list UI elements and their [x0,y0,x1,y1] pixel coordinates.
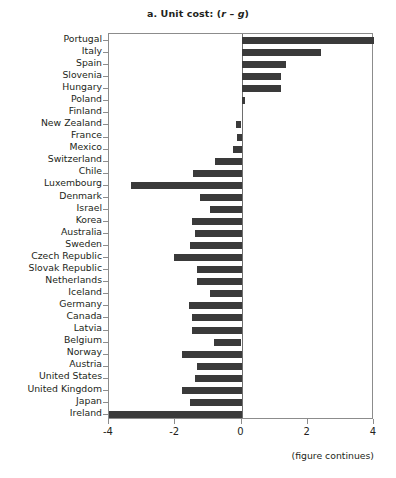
bar-row [109,360,372,372]
bar-row [109,155,372,167]
bar-france [237,134,242,141]
bar-row [109,311,372,323]
bar-united-kingdom [182,387,242,394]
y-axis-tick [103,52,109,53]
y-axis-label-iceland: Iceland [0,286,102,297]
y-axis-label-japan: Japan [0,395,102,406]
y-axis-label-italy: Italy [0,45,102,56]
bar-row [109,348,372,360]
bar-switzerland [215,158,242,165]
y-axis-tick [103,390,109,391]
y-axis-label-switzerland: Switzerland [0,153,102,164]
bar-row [109,58,372,70]
bar-row [109,275,372,287]
y-axis-tick [103,233,109,234]
y-axis-label-denmark: Denmark [0,190,102,201]
bar-iceland [210,290,241,297]
bar-ireland [109,411,242,418]
x-axis-tick-label: 2 [287,426,327,437]
y-axis-label-united-kingdom: United Kingdom [0,383,102,394]
y-axis-tick [103,173,109,174]
y-axis-label-new-zealand: New Zealand [0,117,102,128]
y-axis-tick [103,342,109,343]
y-axis-tick [103,221,109,222]
bar-row [109,106,372,118]
bar-sweden [190,242,241,249]
chart-title-suffix: ) [245,8,249,19]
bar-row [109,143,372,155]
y-axis-label-latvia: Latvia [0,322,102,333]
x-axis-tick-label: 0 [221,426,261,437]
plot-area [108,33,373,419]
y-axis-tick [103,64,109,65]
bar-italy [242,49,322,56]
y-axis-label-france: France [0,129,102,140]
x-axis-tick [373,419,374,424]
bar-poland [242,97,246,104]
chart-title-dash: – [226,8,238,19]
bar-denmark [200,194,241,201]
y-axis-label-norway: Norway [0,346,102,357]
y-axis-tick [103,149,109,150]
bar-row [109,299,372,311]
bar-spain [242,61,287,68]
y-axis-label-hungary: Hungary [0,81,102,92]
y-axis-label-korea: Korea [0,214,102,225]
bar-row [109,215,372,227]
y-axis-tick [103,209,109,210]
figure-panel-a: a. Unit cost: (r – g) (figure continues)… [0,0,396,478]
x-axis-tick [241,419,242,424]
x-axis-tick [307,419,308,424]
chart-title-prefix: a. Unit cost: ( [147,8,221,19]
y-axis-label-israel: Israel [0,202,102,213]
bar-row [109,70,372,82]
bar-row [109,287,372,299]
y-axis-label-czech-republic: Czech Republic [0,250,102,261]
y-axis-label-sweden: Sweden [0,238,102,249]
y-axis-tick [103,330,109,331]
y-axis-label-ireland: Ireland [0,407,102,418]
y-axis-label-germany: Germany [0,298,102,309]
y-axis-tick [103,185,109,186]
x-axis-tick-label: -4 [88,426,128,437]
bar-row [109,384,372,396]
bar-row [109,324,372,336]
y-axis-tick [103,378,109,379]
y-axis-label-slovenia: Slovenia [0,69,102,80]
y-axis-tick [103,257,109,258]
y-axis-label-poland: Poland [0,93,102,104]
bar-row [109,118,372,130]
bar-row [109,263,372,275]
bar-row [109,372,372,384]
bar-mexico [233,146,241,153]
bar-row [109,94,372,106]
chart-title: a. Unit cost: (r – g) [0,8,396,19]
bar-portugal [242,37,375,44]
bar-chile [193,170,241,177]
bar-row [109,191,372,203]
chart-title-variable-g: g [238,8,245,19]
bar-row [109,251,372,263]
bar-australia [195,230,241,237]
bar-new-zealand [236,121,242,128]
bar-row [109,34,372,46]
bar-japan [190,399,241,406]
y-axis-tick [103,293,109,294]
y-axis-tick [103,414,109,415]
y-axis-label-portugal: Portugal [0,33,102,44]
y-axis-tick [103,281,109,282]
y-axis-label-canada: Canada [0,310,102,321]
y-axis-tick [103,317,109,318]
x-axis-tick [174,419,175,424]
bar-row [109,396,372,408]
y-axis-tick [103,354,109,355]
bar-norway [182,351,242,358]
y-axis-tick [103,305,109,306]
bar-belgium [214,339,241,346]
bar-slovenia [242,73,282,80]
y-axis-tick [103,402,109,403]
y-axis-tick [103,245,109,246]
y-axis-label-netherlands: Netherlands [0,274,102,285]
y-axis-tick [103,366,109,367]
bar-austria [197,363,242,370]
